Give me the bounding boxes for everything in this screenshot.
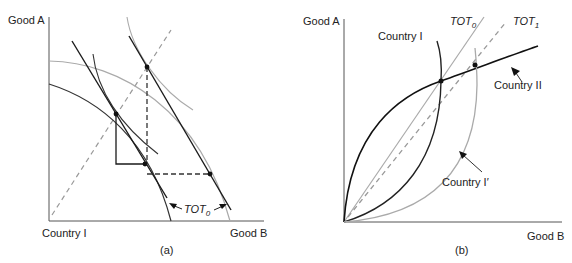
panel-b-label-country-1: Country I	[378, 30, 423, 42]
panel-b-tot0-line	[344, 17, 484, 222]
panel-a-x-axis-label: Good B	[230, 227, 267, 239]
panel-b-caption: (b)	[455, 244, 468, 256]
panel-b-equilibrium-1	[473, 63, 478, 68]
panel-b-x-axis-label: Good B	[527, 230, 564, 242]
panel-b-y-axis-label: Good A	[303, 15, 340, 27]
panel-a-point-right	[208, 172, 213, 177]
panel-a-point-consumption	[114, 112, 119, 117]
arrow-icon-country-2	[511, 67, 520, 76]
panel-b-label-country-2: Country II	[494, 79, 542, 91]
panel-a-point-production	[143, 162, 148, 167]
panel-b-country-1-prime-pointer	[463, 155, 482, 172]
panel-b-offer-curve-country-1	[344, 41, 441, 222]
panel-a-indifference-curve-high	[127, 17, 193, 110]
panel-a-caption: (a)	[160, 244, 173, 256]
panel-b-tot1-label: TOT1	[513, 15, 539, 30]
panel-b-label-country-1-prime: Country I′	[442, 176, 489, 188]
panel-a-tot-line-2	[129, 36, 231, 210]
panel-a-origin-label: Country I	[42, 227, 87, 239]
panel-b-tot0-label: TOT0	[450, 15, 477, 30]
panel-b-equilibrium-0	[439, 79, 444, 84]
figure-canvas: Good A Country I Good B (a) TOT0 Good A …	[0, 0, 572, 263]
panel-a-dashed-ray	[52, 30, 171, 215]
panel-b: Good A Country I Country II Country I′ T…	[303, 15, 564, 256]
panel-a-y-axis-label: Good A	[8, 14, 45, 26]
panel-a: Good A Country I Good B (a) TOT0	[8, 14, 267, 256]
panel-a-tot-label: TOT0	[184, 203, 211, 218]
panel-a-tot-line-1	[72, 41, 167, 198]
panel-a-ppf-outer	[49, 61, 230, 221]
panel-b-offer-curve-country-1-prime	[344, 48, 477, 222]
panel-a-point-upper	[145, 65, 150, 70]
